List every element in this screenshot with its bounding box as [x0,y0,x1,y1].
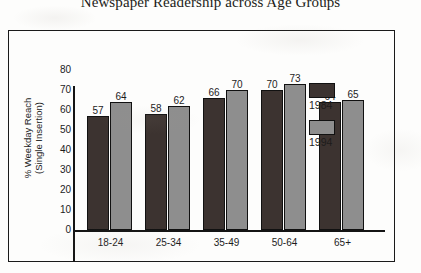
bar-1984-18-24[interactable]: 57 [87,116,109,230]
x-axis-category-50-64: 50-64 [255,237,315,248]
y-tick-label-80: 80 [49,64,71,75]
y-axis-label: % Weekday Reach (Single Insertion) [22,78,44,198]
bar-value-label: 73 [289,73,300,84]
legend-swatch-1994 [309,120,335,135]
bar-value-label: 66 [208,87,219,98]
x-axis-category-18-24: 18-24 [81,237,141,248]
bar-1994-18-24[interactable]: 64 [110,102,132,230]
bar-value-label: 62 [173,95,184,106]
chart-legend: 1984 1994 [309,83,379,157]
legend-label-1984: 1984 [309,99,379,111]
bar-value-label: 64 [115,91,126,102]
legend-item-1994: 1994 [309,120,379,148]
bar-value-label: 70 [231,79,242,90]
bar-1994-35-49[interactable]: 70 [226,90,248,230]
legend-swatch-1984 [309,83,335,98]
bar-value-label: 57 [92,105,103,116]
bar-1994-25-34[interactable]: 62 [168,106,190,230]
y-tick-label-50: 50 [49,124,71,135]
x-axis-category-65+: 65+ [313,237,373,248]
bar-group: 7073 [261,70,308,230]
y-tick-label-10: 10 [49,204,71,215]
y-tick-label-40: 40 [49,144,71,155]
bar-group: 5764 [87,70,134,230]
y-tick-label-60: 60 [49,104,71,115]
y-tick-label-0: 0 [49,224,71,235]
chart-frame: % Weekday Reach (Single Insertion) 01020… [8,30,395,262]
y-axis-ticks: 01020304050607080 [43,31,71,263]
y-tick-label-30: 30 [49,164,71,175]
bar-1984-35-49[interactable]: 66 [203,98,225,230]
bar-group: 5862 [145,70,192,230]
bar-1994-50-64[interactable]: 73 [284,84,306,230]
bar-value-label: 70 [266,79,277,90]
x-axis-category-35-49: 35-49 [197,237,257,248]
legend-label-1994: 1994 [309,136,379,148]
bar-group: 6670 [203,70,250,230]
y-tick-label-20: 20 [49,184,71,195]
bar-1984-25-34[interactable]: 58 [145,114,167,230]
legend-item-1984: 1984 [309,83,379,111]
x-axis-category-25-34: 25-34 [139,237,199,248]
y-tick-label-70: 70 [49,84,71,95]
bar-value-label: 58 [150,103,161,114]
bar-1984-50-64[interactable]: 70 [261,90,283,230]
chart-title: Newspaper Readership across Age Groups [0,0,421,11]
